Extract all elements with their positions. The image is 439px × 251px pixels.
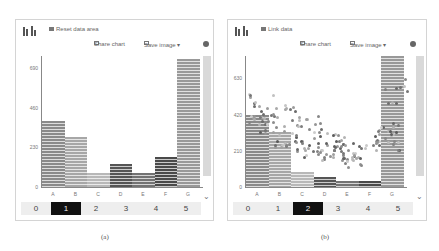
- scatter-point: [326, 132, 329, 135]
- slider-step-2[interactable]: 2: [81, 202, 111, 215]
- x-axis: [245, 187, 407, 188]
- scatter-point: [313, 137, 316, 140]
- scatter-point: [364, 147, 367, 150]
- gear-icon[interactable]: [203, 41, 209, 47]
- scatter-point: [374, 135, 377, 138]
- scatter-point: [254, 101, 257, 104]
- bar-chart[interactable]: 0230460690ABCDEFG: [41, 56, 201, 188]
- slider-step-5[interactable]: 5: [383, 202, 413, 215]
- scatter-point: [253, 118, 256, 121]
- x-tick-label: C: [87, 191, 109, 197]
- y-tick-label: 690: [30, 65, 38, 71]
- bar-F[interactable]: [359, 181, 382, 187]
- scatter-point: [375, 149, 378, 152]
- scatter-point: [295, 141, 298, 144]
- scatter-point: [333, 149, 336, 152]
- scatter-point: [397, 141, 400, 144]
- scatter-point: [267, 120, 270, 123]
- scrollbar[interactable]: [416, 56, 424, 176]
- scatter-point: [305, 118, 308, 121]
- scatter-point: [403, 85, 406, 88]
- bar-scatter-chart[interactable]: 0210420630ABCDEFG: [245, 56, 405, 188]
- bar-B[interactable]: [269, 132, 292, 187]
- bar-B[interactable]: [65, 137, 88, 187]
- scatter-point: [292, 106, 295, 109]
- scatter-point: [284, 104, 287, 107]
- x-tick-label: D: [314, 191, 336, 197]
- scatter-point: [248, 121, 251, 124]
- scatter-point: [283, 125, 286, 128]
- scatter-point: [393, 140, 396, 143]
- step-slider[interactable]: 012345: [233, 202, 413, 215]
- scatter-point: [337, 134, 340, 137]
- x-tick-label: A: [42, 191, 64, 197]
- scatter-point: [272, 121, 275, 124]
- y-tick-label: 0: [35, 184, 38, 190]
- scatter-point: [258, 105, 261, 108]
- scatter-point: [347, 166, 350, 169]
- slider-step-1[interactable]: 1: [51, 202, 81, 215]
- scatter-point: [317, 115, 320, 118]
- slider-step-5[interactable]: 5: [171, 202, 201, 215]
- bar-E[interactable]: [132, 173, 155, 187]
- slider-step-0[interactable]: 0: [233, 202, 263, 215]
- scatter-point: [319, 122, 322, 125]
- slider-step-1[interactable]: 1: [263, 202, 293, 215]
- scatter-point: [352, 159, 355, 162]
- scatter-point: [359, 157, 362, 160]
- scatter-point: [259, 116, 262, 119]
- bar-D[interactable]: [314, 177, 337, 187]
- scatter-point: [332, 156, 335, 159]
- x-tick-label: G: [177, 191, 199, 197]
- y-tick-label: 230: [30, 144, 38, 150]
- x-axis: [41, 187, 203, 188]
- scatter-point: [312, 150, 315, 153]
- x-tick-label: B: [269, 191, 291, 197]
- scatter-point: [291, 132, 294, 135]
- chevron-down-icon[interactable]: ⌄: [416, 192, 423, 201]
- x-tick-label: E: [132, 191, 154, 197]
- chart-panel-a: Reset data area Share chart Save image ▾…: [15, 19, 214, 221]
- scatter-point: [397, 149, 400, 152]
- bar-F[interactable]: [155, 157, 178, 187]
- gear-icon[interactable]: [410, 41, 416, 47]
- scrollbar[interactable]: [203, 56, 211, 176]
- slider-step-3[interactable]: 3: [323, 202, 353, 215]
- bar-C[interactable]: [87, 173, 110, 187]
- scatter-point: [308, 144, 311, 147]
- bar-G[interactable]: [177, 59, 200, 187]
- step-slider[interactable]: 012345: [21, 202, 201, 215]
- scatter-point: [387, 141, 390, 144]
- scatter-point: [266, 107, 269, 110]
- bar-E[interactable]: [336, 181, 359, 187]
- x-tick-label: G: [381, 191, 403, 197]
- scatter-point: [280, 146, 283, 149]
- scatter-point: [249, 94, 252, 97]
- chevron-down-icon[interactable]: ⌄: [203, 192, 210, 201]
- bar-A[interactable]: [42, 121, 65, 187]
- scatter-point: [319, 135, 322, 138]
- scatter-point: [347, 149, 350, 152]
- chart-panel-b: Link data Share chart Save image ▾ 02104…: [227, 19, 427, 221]
- bar-C[interactable]: [291, 172, 314, 188]
- scatter-point: [390, 133, 393, 136]
- scatter-point: [275, 107, 278, 110]
- link-data-link[interactable]: Link data: [261, 26, 292, 32]
- x-tick-label: F: [155, 191, 177, 197]
- scatter-point: [343, 136, 346, 139]
- scatter-point: [395, 131, 398, 134]
- slider-step-3[interactable]: 3: [111, 202, 141, 215]
- scatter-point: [317, 146, 320, 149]
- x-tick-label: F: [359, 191, 381, 197]
- scatter-point: [335, 140, 338, 143]
- scatter-point: [313, 131, 316, 134]
- scatter-point: [301, 142, 304, 145]
- slider-step-2[interactable]: 2: [293, 202, 323, 215]
- slider-step-4[interactable]: 4: [353, 202, 383, 215]
- slider-step-4[interactable]: 4: [141, 202, 171, 215]
- slider-step-0[interactable]: 0: [21, 202, 51, 215]
- reset-data-area-link[interactable]: Reset data area: [49, 26, 99, 32]
- bar-D[interactable]: [110, 164, 133, 187]
- scatter-point: [351, 156, 354, 159]
- scatter-point: [395, 87, 398, 90]
